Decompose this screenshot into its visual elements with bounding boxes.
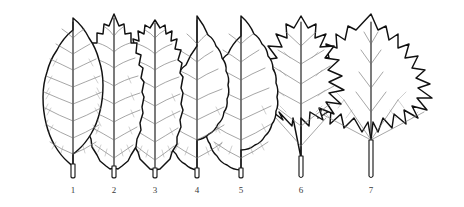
leaf-label-7: 7 (363, 186, 379, 195)
leaf-label-2: 2 (106, 186, 122, 195)
leaf-label-6: 6 (293, 186, 309, 195)
leaf-5-petiole (239, 168, 243, 178)
leaf-label-5: 5 (233, 186, 249, 195)
leaf-6-petiole (299, 156, 303, 178)
leaf-label-3: 3 (147, 186, 163, 195)
leaf-figure-svg (0, 0, 464, 207)
leaf-label-1: 1 (65, 186, 81, 195)
leaf-7-petiole (369, 140, 373, 178)
leaf-4-petiole (195, 168, 199, 178)
leaf-label-4: 4 (189, 186, 205, 195)
leaf-3-petiole (153, 168, 157, 178)
leaf-progression-plate: 1 2 3 4 5 6 7 (0, 0, 464, 207)
leaf-1-petiole (71, 164, 75, 178)
leaf-2-petiole (112, 166, 116, 178)
